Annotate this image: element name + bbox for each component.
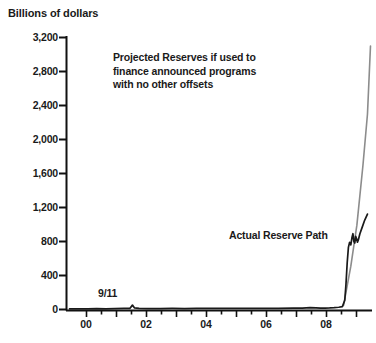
y-axis-ticks bbox=[59, 38, 67, 310]
x-axis bbox=[66, 311, 372, 318]
series-actual-reserve-path bbox=[70, 214, 368, 309]
y-axis bbox=[59, 36, 67, 311]
reserves-chart: Billions of dollars 3,200 2,800 2,400 2,… bbox=[0, 0, 376, 343]
plot-area bbox=[0, 0, 376, 343]
